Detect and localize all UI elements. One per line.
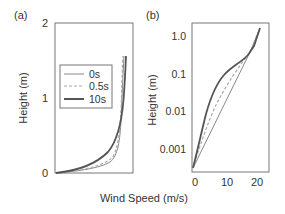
panel-b: (b) 1.0 0.1 0.01 0.001 Height (m) 0 10 2…: [146, 9, 269, 188]
panel-b-xtick-10: 10: [221, 176, 233, 188]
legend: 0s 0.5s 10s: [60, 65, 112, 108]
panel-b-xtick-0: 0: [192, 176, 198, 188]
panel-b-curve-0s: [193, 28, 260, 168]
panel-b-ytick-1: 1.0: [171, 30, 186, 42]
panel-b-ylabel: Height (m): [146, 74, 158, 125]
figure: (a) 2 1 0 Height (m) 0s 0.5s 10s (b) 1.0…: [0, 0, 285, 214]
legend-label-05s: 0.5s: [89, 80, 109, 92]
panel-a-ytick-2: 2: [42, 17, 48, 29]
panel-b-label: (b): [146, 9, 159, 21]
panel-a-label: (a): [14, 9, 27, 21]
shared-xlabel: Wind Speed (m/s): [100, 192, 188, 204]
panel-b-ytick-01: 0.1: [171, 68, 186, 80]
panel-b-xtick-20: 20: [251, 176, 263, 188]
panel-b-frame: [192, 23, 269, 172]
panel-a-ylabel: Height (m): [17, 72, 29, 123]
panel-b-ytick-001: 0.01: [166, 105, 187, 117]
panel-a-ytick-0: 0: [42, 167, 48, 179]
panel-a-ytick-1: 1: [42, 92, 48, 104]
legend-label-0s: 0s: [89, 68, 100, 80]
panel-a: (a) 2 1 0 Height (m) 0s 0.5s 10s: [14, 9, 133, 179]
panel-b-ytick-0001: 0.001: [160, 143, 186, 155]
legend-label-10s: 10s: [89, 93, 106, 105]
